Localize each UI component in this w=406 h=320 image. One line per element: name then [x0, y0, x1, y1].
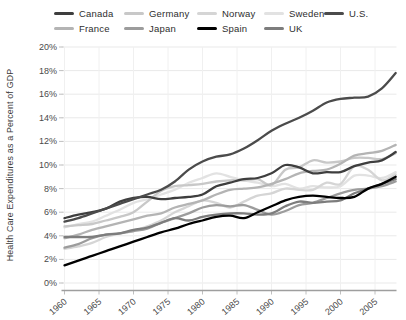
x-tick-label: 1960	[47, 296, 69, 317]
y-axis-label: Health Care Expenditures as a Percent of…	[5, 69, 15, 262]
y-tick-label: 12%	[39, 136, 57, 146]
y-tick-label: 10%	[39, 160, 57, 170]
plot-area: Health Care Expenditures as a Percent of…	[0, 0, 406, 320]
series-line-us	[65, 73, 396, 222]
x-tick-label: 1970	[116, 296, 138, 317]
y-tick-label: 6%	[44, 207, 57, 217]
x-tick-label: 1985	[220, 296, 242, 317]
y-tick-label: 4%	[44, 231, 57, 241]
x-tick-label: 1965	[82, 296, 104, 317]
health-expenditure-chart: CanadaGermanyNorwaySwedenU.S.FranceJapan…	[0, 0, 406, 320]
y-tick-label: 14%	[39, 113, 57, 123]
y-tick-label: 20%	[39, 42, 57, 52]
y-tick-label: 16%	[39, 89, 57, 99]
x-tick-label: 1980	[185, 296, 207, 317]
y-tick-label: 8%	[44, 184, 57, 194]
y-tick-label: 2%	[44, 254, 57, 264]
y-tick-label: 18%	[39, 66, 57, 76]
x-tick-label: 1995	[289, 296, 311, 317]
x-tick-label: 1990	[254, 296, 276, 317]
y-tick-label: 0%	[44, 278, 57, 288]
x-tick-label: 2005	[358, 296, 380, 317]
x-tick-label: 1975	[151, 296, 173, 317]
x-tick-label: 2000	[323, 296, 345, 317]
